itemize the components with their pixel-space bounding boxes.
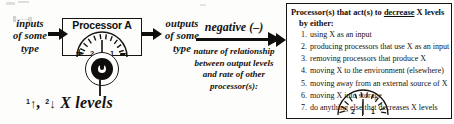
output-arrow-head [153, 28, 162, 40]
caption-line-4: processor(s): [210, 81, 258, 91]
list-item: 4.moving X to the environment (elsewhere… [301, 65, 451, 77]
minus-sign: – [120, 48, 126, 59]
list-item-number: 3. [301, 53, 310, 65]
list-item-text: removing processors that produce X [310, 54, 426, 63]
panel-heading: Processor(s) that act(s) to decrease X l… [291, 7, 449, 29]
diagram-canvas: inputsof sometype Processor A 2 [0, 0, 454, 124]
scan-artifact [6, 2, 15, 5]
list-item-number: 7. [301, 102, 310, 114]
caption-line-2: between output levels [195, 58, 274, 68]
panel-heading-line2: by either: [291, 18, 449, 29]
caption-line-3: and rate of other [203, 69, 265, 79]
list-item-text: moving X to the environment (elsewhere) [310, 66, 444, 75]
x-levels-arrow-up-icon: ↑ [30, 96, 37, 111]
panel-heading-part2: X levels [414, 8, 444, 17]
caption-line-1: nature of relationship [193, 46, 274, 56]
panel-arrow-head [276, 33, 286, 47]
list-item: 3.removing processors that produce X [301, 53, 451, 65]
x-levels-arrow-down-icon: ↓ [49, 96, 56, 111]
panel-gauge: 2 1 [335, 88, 391, 118]
panel-gauge-tick-left-label: 2 [351, 108, 355, 115]
x-levels-label: 1↑, 2↓ X levels [26, 94, 144, 112]
list-item-text: producing processors that use X as an in… [310, 42, 449, 51]
scan-artifact [200, 4, 206, 6]
panel-gauge-stem [362, 102, 363, 116]
negative-relationship-label: negative (–) [196, 20, 272, 35]
scan-artifact [18, 1, 29, 3]
list-item-text: using X as an input [310, 30, 372, 39]
plus-sign: + [76, 47, 82, 58]
list-item-number: 4. [301, 65, 310, 77]
panel-heading-underlined: decrease [384, 8, 415, 17]
x-levels-text: X levels [60, 94, 113, 111]
list-item: 2.producing processors that use X as an … [301, 41, 451, 53]
inputs-label: inputsof sometype [2, 18, 58, 55]
panel-gauge-tick-right-label: 1 [371, 108, 375, 115]
list-item-number: 2. [301, 41, 310, 53]
decrease-processors-panel: Processor(s) that act(s) to decrease X l… [286, 3, 452, 119]
list-item-number: 6. [301, 90, 310, 102]
list-item: 1.using X as an input [301, 29, 451, 41]
relationship-caption: nature of relationship between output le… [186, 46, 282, 92]
panel-heading-part1: Processor(s) that act(s) to [291, 8, 384, 17]
list-item-text: moving away from an external source of X [310, 79, 448, 88]
relationship-arrow-shaft [196, 38, 272, 41]
list-item-number: 5. [301, 78, 310, 90]
gauge-knob-pointer [100, 63, 104, 70]
list-item-number: 1. [301, 29, 310, 41]
x-levels-separator: , [37, 94, 45, 111]
